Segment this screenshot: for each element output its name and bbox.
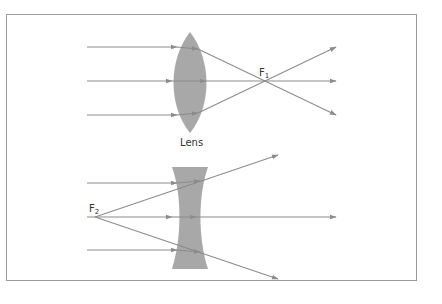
converging-lens-group: F1 Lens — [87, 32, 336, 148]
lens-label: Lens — [180, 137, 203, 148]
diverging-lens-group: F2 — [87, 155, 336, 279]
focal-point-label-f2: F2 — [89, 203, 99, 216]
refracted-ray-top — [198, 49, 336, 115]
lens-diagram: F1 Lens F2 — [0, 0, 442, 304]
focal-point-label-f1: F1 — [259, 67, 269, 80]
refracted-ray-bottom — [198, 47, 336, 113]
